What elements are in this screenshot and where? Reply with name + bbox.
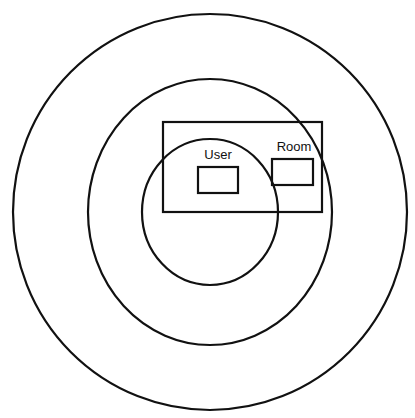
container-rect (163, 122, 322, 212)
room-label: Room (277, 139, 312, 154)
diagram-canvas: User Room (0, 0, 415, 418)
user-label: User (204, 147, 232, 162)
room-box (272, 159, 313, 185)
user-box (198, 167, 238, 193)
